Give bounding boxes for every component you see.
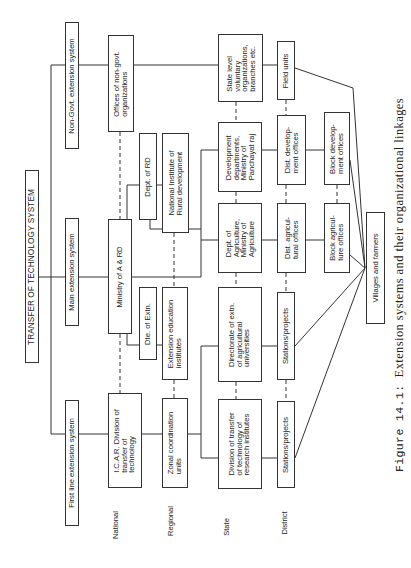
node-label: Stations/projects [282, 416, 290, 472]
node-dist-dev: Dist. develop- ment offices [277, 115, 306, 185]
node-state-vol: State level voluntary organizations, bra… [218, 34, 263, 102]
node-dev-depts: Development departments, Ministry of Pan… [218, 122, 262, 192]
node-label: Stations/projects [282, 308, 290, 364]
level-label-district: District [278, 498, 292, 548]
node-nird: National Institute of Rural development [162, 133, 189, 233]
node-label: Block agricul- ture offices [329, 215, 344, 261]
node-main-system: Main extension system [65, 218, 79, 326]
node-icar: I.C.A.R. Division of transfer of technol… [108, 393, 142, 488]
node-label: Development departments, Ministry of Pan… [225, 134, 256, 180]
node-villages: Villages and farmers [366, 212, 385, 324]
node-div-research: Division of transfer of technology of re… [218, 399, 262, 489]
node-label: Field units [282, 53, 290, 88]
level-text: National [112, 511, 120, 539]
node-ext-edu: Extension education institutes [162, 287, 188, 380]
node-stations-univ: Stations/projects [277, 292, 295, 380]
node-label: State level voluntary organizations, bra… [225, 44, 256, 91]
node-label: Block develop- ment offices [329, 124, 344, 174]
node-stations-res: Stations/projects [277, 401, 295, 488]
level-label-national: National [109, 500, 123, 550]
node-non-govt-system: Non-Govt. extension system [65, 22, 79, 149]
node-label: Extension education institutes [167, 299, 182, 367]
diagram-title-box: TRANSFER OF TECHNOLOGY SYSTEM [25, 170, 39, 363]
connector-lines [0, 0, 411, 568]
level-text: Regional [167, 506, 175, 536]
level-text: State [223, 518, 231, 536]
node-dept-rd: Dept. of RD [139, 133, 157, 220]
node-label: Dist. develop- ment offices [284, 127, 299, 173]
node-label: Villages and farmers [372, 233, 380, 302]
rotated-page: TRANSFER OF TECHNOLOGY SYSTEM Non-Govt. … [0, 0, 411, 568]
node-label: Dist. agricul- tural offices [284, 217, 299, 259]
figure-number: Figure 14.1: [393, 384, 406, 472]
node-label: Dept. of Agriculture, Ministry of Agricu… [225, 219, 256, 257]
level-label-regional: Regional [164, 496, 178, 546]
node-block-dev: Block develop- ment offices [324, 112, 350, 185]
node-dir-extn: Directorate of extn. of agricultural uni… [218, 287, 262, 382]
node-zonal: Zonal coordination units [162, 398, 188, 488]
node-label: Directorate of extn. of agricultural uni… [228, 302, 251, 366]
node-label: Division of transfer of technology of re… [228, 413, 251, 476]
level-text: District [281, 511, 289, 534]
node-field-units: Field units [277, 41, 295, 100]
node-dte-extn: Dte. of Extn. [139, 287, 157, 360]
figure-caption: Figure 14.1: Extension systems and their… [389, 40, 409, 530]
node-label: Dte. of Extn. [144, 303, 152, 345]
node-first-line-system: First line extension system [65, 400, 79, 526]
node-ministry: Ministry of A & RD [108, 219, 132, 334]
node-label: National Institute of Rural development [168, 150, 183, 215]
node-dist-agri: Dist. agricul- tural offices [277, 203, 306, 273]
node-label: First line extension system [68, 418, 76, 507]
level-label-state: State [220, 502, 234, 552]
node-label: Offices of non-govt. organizations [113, 51, 128, 117]
diagram-title: TRANSFER OF TECHNOLOGY SYSTEM [28, 189, 36, 345]
node-dept-agri: Dept. of Agriculture, Ministry of Agricu… [218, 203, 262, 273]
node-label: I.C.A.R. Division of transfer of technol… [113, 409, 136, 473]
node-label: Non-Govt. extension system [68, 38, 76, 133]
node-label: Zonal coordination units [167, 412, 182, 474]
node-label: Dept. of RD [144, 157, 152, 197]
node-block-agri: Block agricul- ture offices [324, 203, 350, 273]
figure-caption-text: Extension systems and their organization… [392, 98, 406, 378]
node-label: Ministry of A & RD [116, 246, 124, 307]
node-label: Main extension system [68, 233, 76, 310]
node-offices-ngo: Offices of non-govt. organizations [108, 35, 134, 132]
